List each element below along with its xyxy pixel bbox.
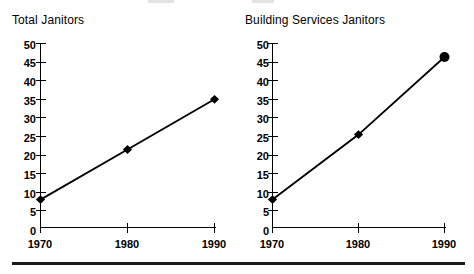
chart-panel-building-services-janitors: Building Services Janitors 50 45 40 35 3… [237, 0, 474, 258]
xtick-label: 1980 [105, 238, 149, 250]
xtick-label: 1990 [422, 238, 466, 250]
footer-divider-rule [12, 262, 465, 265]
xtick-label: 1990 [192, 238, 236, 250]
xtick-label: 1970 [18, 238, 62, 250]
xtick-label: 1970 [250, 238, 294, 250]
chart-panel-total-janitors: Total Janitors 50 45 40 35 30 25 20 15 1… [0, 0, 237, 258]
plot-area-building-services-janitors: 50 45 40 35 30 25 20 15 10 5 0 [237, 0, 474, 258]
axes-and-series-building-services-janitors [237, 0, 474, 258]
xtick-label: 1980 [336, 238, 380, 250]
plot-area-total-janitors: 50 45 40 35 30 25 20 15 10 5 0 [0, 0, 237, 258]
series-markers-total-janitors [36, 95, 219, 204]
axes-and-series-total-janitors [0, 0, 237, 258]
figure-canvas: Total Janitors 50 45 40 35 30 25 20 15 1… [0, 0, 474, 274]
series-markers-building-services-janitors [268, 52, 450, 204]
series-line-building-services-janitors [273, 57, 445, 200]
